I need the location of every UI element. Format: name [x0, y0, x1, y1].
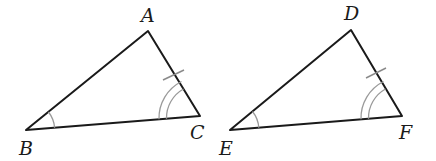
triangle-abc: A B C: [18, 4, 205, 159]
triangle-def: D E F: [218, 2, 413, 159]
angle-c-inner-arc: [166, 89, 183, 119]
vertex-label-c: C: [190, 121, 205, 143]
vertex-label-a: A: [139, 4, 155, 26]
congruent-triangles-diagram: A B C D E F: [0, 0, 436, 161]
side-df-tick-mark: [366, 68, 386, 78]
angle-f-inner-arc: [368, 89, 385, 119]
vertex-label-b: B: [18, 137, 33, 159]
angle-f-outer-arc: [361, 82, 384, 120]
triangle-abc-sides: [26, 31, 200, 130]
triangle-def-sides: [230, 30, 402, 130]
angle-b-arc: [49, 112, 55, 128]
vertex-label-d: D: [343, 2, 359, 24]
vertex-label-e: E: [218, 137, 233, 159]
angle-c-outer-arc: [159, 82, 182, 120]
angle-e-arc: [253, 112, 259, 128]
vertex-label-f: F: [398, 121, 413, 143]
